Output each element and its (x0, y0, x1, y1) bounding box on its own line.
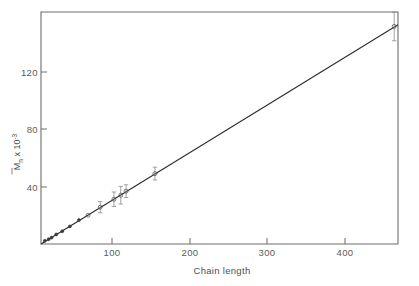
y-axis-exponent: -3 (11, 133, 18, 139)
marker-circle (77, 219, 80, 222)
y-axis-symbol: M (12, 163, 22, 171)
x-tick-label-300: 300 (258, 247, 275, 258)
marker-circle (43, 239, 46, 242)
plot-frame (41, 12, 398, 244)
data-point (112, 192, 116, 206)
y-tick-label-80: 80 (27, 124, 38, 135)
marker-circle (47, 238, 50, 241)
marker-circle (61, 230, 64, 233)
x-axis-ticks: 100 200 300 400 (103, 238, 353, 258)
figure-container: 120 80 40 100 200 300 400 Chain length M… (0, 0, 419, 286)
marker-circle (50, 236, 53, 239)
marker-circle (55, 233, 58, 236)
x-axis-title: Chain length (194, 265, 251, 276)
svg-text:Mn x 10-3: Mn x 10-3 (11, 133, 24, 170)
x-tick-label-100: 100 (103, 247, 120, 258)
y-tick-label-120: 120 (21, 67, 38, 78)
x-tick-label-200: 200 (181, 247, 198, 258)
marker-circle (68, 225, 71, 228)
y-axis-multiplier: x 10 (12, 140, 22, 160)
data-point (55, 233, 58, 236)
data-point (77, 219, 80, 222)
data-point (68, 225, 71, 228)
data-point (50, 236, 53, 239)
scatter-plot: 120 80 40 100 200 300 400 Chain length M… (0, 0, 419, 286)
data-point (47, 238, 50, 241)
data-point (61, 230, 64, 233)
y-axis-title: Mn x 10-3 (11, 133, 24, 174)
fit-line (41, 25, 398, 244)
y-tick-label-40: 40 (27, 182, 38, 193)
x-tick-label-400: 400 (336, 247, 353, 258)
data-points-layer (43, 12, 396, 242)
data-point (43, 239, 46, 242)
data-point (119, 186, 123, 204)
y-axis-ticks: 120 80 40 (21, 67, 47, 193)
